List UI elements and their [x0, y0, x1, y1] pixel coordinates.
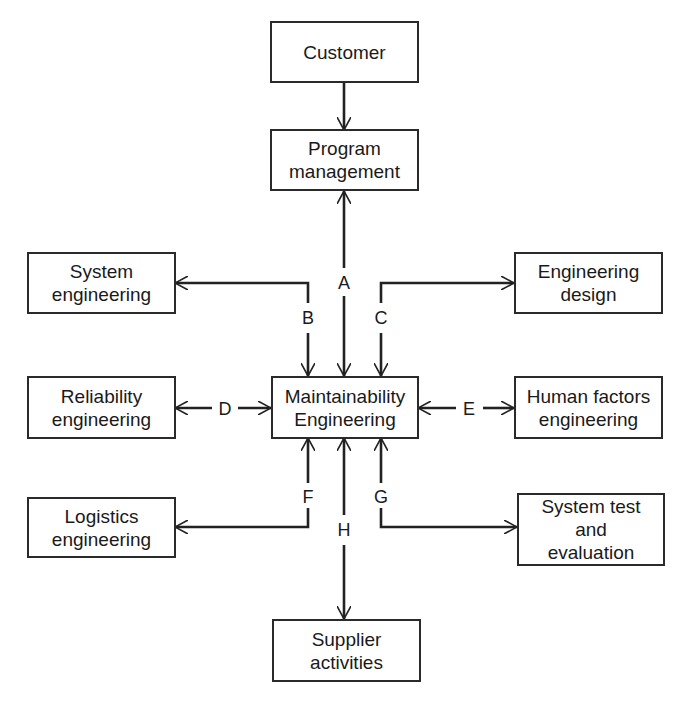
node-engineering-design: Engineering design — [514, 252, 663, 314]
node-label: Program management — [289, 137, 400, 183]
node-program-management: Program management — [270, 129, 419, 191]
node-maintainability-engineering: Maintainability Engineering — [271, 376, 419, 439]
node-human-factors-engineering: Human factors engineering — [514, 376, 663, 439]
node-label: Logistics engineering — [52, 505, 151, 551]
edge-label-d: D — [217, 398, 233, 420]
node-label: Maintainability Engineering — [285, 385, 405, 431]
node-label: Customer — [303, 41, 385, 64]
node-label: Supplier activities — [310, 628, 383, 674]
edge-c-upper — [381, 283, 514, 303]
node-label: Reliability engineering — [52, 385, 151, 431]
node-label: System test and evaluation — [541, 495, 640, 564]
node-supplier-activities: Supplier activities — [272, 619, 421, 682]
node-logistics-engineering: Logistics engineering — [27, 497, 176, 558]
edge-f-lower — [175, 508, 308, 527]
connector-lines — [0, 0, 685, 701]
edge-label-g: G — [373, 486, 389, 508]
node-label: System engineering — [52, 260, 151, 306]
node-label: Engineering design — [538, 260, 639, 306]
edge-label-c: C — [373, 307, 389, 329]
edge-label-a: A — [336, 272, 352, 294]
edge-b-upper — [175, 283, 308, 303]
edge-label-b: B — [300, 307, 316, 329]
node-reliability-engineering: Reliability engineering — [27, 376, 176, 439]
edge-label-h: H — [336, 519, 352, 541]
node-customer: Customer — [270, 21, 419, 83]
node-label: Human factors engineering — [527, 385, 651, 431]
node-system-engineering: System engineering — [27, 252, 176, 314]
edge-label-e: E — [461, 398, 477, 420]
node-system-test-evaluation: System test and evaluation — [517, 493, 665, 566]
edge-g-lower — [381, 508, 517, 527]
edge-label-f: F — [300, 486, 316, 508]
